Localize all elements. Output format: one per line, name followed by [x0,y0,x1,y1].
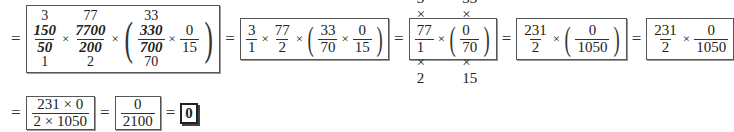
times-sign: × [62,31,69,47]
right-paren: ) [376,22,382,56]
equals-sign: = [100,103,110,123]
times-sign: × [111,31,118,47]
parenthesized-group: ( 33 330700 70 × 015 ) [121,9,217,70]
parenthesized-group: ( 01050 ) [562,22,623,56]
equals-sign: = [394,29,404,49]
numerator: 150 [32,23,59,39]
fraction: 2312 [652,23,679,56]
times-sign: × [341,31,348,47]
combined-products-box: 3 × 771 × 2 × ( 33 × 070 × 15 ) [409,18,497,60]
denominator: 15 [180,39,199,56]
parentheses-removed-box: 2312 × 01050 [646,18,734,60]
times-sign: × [296,31,303,47]
numerator: 77 [273,23,292,39]
fraction: 3 × 771 × 2 [415,0,434,87]
denominator: 1 × 2 [415,39,434,87]
final-answer-box: 0 [180,103,198,124]
equals-sign: = [11,103,21,123]
denominator: 1050 [575,39,609,56]
cancel-result-numerator: 33 [144,9,158,23]
denominator: 2 [530,39,542,56]
numerator: 231 × 0 [35,97,85,113]
fraction: 3370 [318,23,337,56]
numerator: 7700 [73,23,107,39]
cancel-result-numerator: 77 [83,9,97,23]
numerator: 33 × 0 [460,0,479,39]
equation-row-2: = 231 × 02 × 1050 = 02100 = 0 [6,96,198,130]
fraction-150-over-50: 3 15050 1 [30,9,61,70]
numerator: 231 [652,23,679,39]
denominator: 700 [138,39,165,56]
denominator: 15 [353,39,372,56]
fraction: 01050 [575,23,609,56]
equation-row-1: = 3 15050 1 × 77 7700200 2 × ( 33 330700… [6,4,734,74]
right-paren: ) [614,22,620,56]
times-sign: × [261,31,268,47]
evaluated-box: 2312 × ( 01050 ) [516,18,627,60]
reduced-fractions-box: 31 × 772 × ( 3370 × 015 ) [240,18,389,60]
fraction: 02100 [121,97,155,130]
equals-sign: = [502,29,512,49]
fraction: 772 [273,23,292,56]
simplified-fraction-box: 02100 [115,96,161,130]
left-paren: ( [124,16,132,62]
denominator: 2100 [121,113,155,130]
single-fraction-box: 231 × 02 × 1050 [26,96,95,130]
numerator: 3 × 77 [415,0,434,39]
fraction: 01050 [694,23,728,56]
denominator: 70 [318,39,337,56]
denominator: 2 [276,39,288,56]
numerator: 0 [705,23,717,39]
equals-sign: = [632,29,642,49]
fraction: 33 × 070 × 15 [460,0,479,87]
equals-sign: = [11,29,21,49]
equals-sign: = [166,103,176,123]
cancellation-box: 3 15050 1 × 77 7700200 2 × ( 33 330700 7… [26,5,221,73]
fraction: 2312 [522,23,549,56]
numerator: 231 [522,23,549,39]
left-paren: ( [450,22,456,56]
left-paren: ( [308,22,314,56]
numerator: 33 [318,23,337,39]
denominator: 200 [77,39,104,56]
denominator: 50 [35,39,54,56]
right-paren: ) [204,16,212,62]
fraction-0-over-15: 015 [180,23,199,56]
left-paren: ( [565,22,571,56]
cancel-result-denominator: 1 [41,55,48,69]
numerator: 3 [246,23,258,39]
times-sign: × [169,31,176,47]
equals-sign: = [225,29,235,49]
denominator: 70 × 15 [460,39,479,87]
denominator: 1050 [694,39,728,56]
times-sign: × [683,31,690,47]
fraction: 31 [246,23,258,56]
numerator: 0 [587,23,599,39]
numerator: 0 [132,97,144,113]
numerator: 0 [356,23,368,39]
cancel-result-numerator: 3 [41,9,48,23]
denominator: 1 [246,39,258,56]
numerator: 330 [138,23,165,39]
cancel-result-denominator: 2 [87,55,94,69]
right-paren: ) [484,22,490,56]
numerator: 0 [184,23,196,39]
cancel-result-denominator: 70 [144,55,158,69]
fraction: 015 [353,23,372,56]
denominator: 2 [660,39,672,56]
times-sign: × [438,31,445,47]
fraction: 231 × 02 × 1050 [32,97,89,130]
times-sign: × [553,31,560,47]
parenthesized-group: ( 3370 × 015 ) [305,22,385,56]
fraction-7700-over-200: 77 7700200 2 [71,9,109,70]
denominator: 2 × 1050 [32,113,89,130]
parenthesized-group: ( 33 × 070 × 15 ) [447,0,493,87]
fraction-330-over-700: 33 330700 70 [136,9,167,70]
